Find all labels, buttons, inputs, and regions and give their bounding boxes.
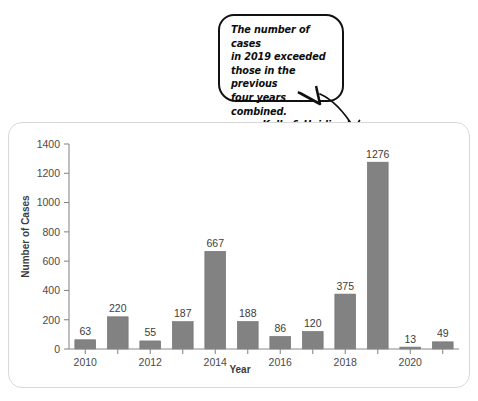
y-tick-label: 200 <box>42 314 60 326</box>
bar <box>367 162 388 349</box>
bar-value-label: 13 <box>404 333 416 345</box>
y-tick-label: 0 <box>54 343 60 355</box>
bar <box>140 341 161 349</box>
annotation-callout: The number of cases in 2019 exceeded tho… <box>218 14 344 102</box>
bar-value-label: 188 <box>239 307 257 319</box>
bar-value-label: 375 <box>336 280 354 292</box>
x-tick-label: 2020 <box>399 356 423 368</box>
y-tick-label: 1000 <box>37 196 61 208</box>
x-tick-label: 2010 <box>74 356 98 368</box>
bar-value-label: 1276 <box>366 148 390 160</box>
bar-value-label: 63 <box>79 325 91 337</box>
bar <box>237 321 258 349</box>
bar-value-label: 187 <box>174 307 192 319</box>
bar-value-label: 220 <box>109 302 127 314</box>
bar-chart-plot: 0200400600800100012001400 63220551876671… <box>9 123 471 389</box>
x-tick-label: 2012 <box>139 356 163 368</box>
x-axis-tick-labels: 201020122014201620182020 <box>74 356 423 368</box>
y-tick-label: 800 <box>42 226 60 238</box>
bar-value-label: 55 <box>144 326 156 338</box>
speech-bubble-tail <box>296 86 326 106</box>
bar-value-label: 86 <box>274 322 286 334</box>
bar-value-label: 667 <box>206 237 224 249</box>
bar <box>172 322 193 349</box>
bar-value-labels: 63220551876671888612037512761349 <box>79 148 448 345</box>
bar <box>335 294 356 349</box>
y-tick-label: 600 <box>42 255 60 267</box>
x-tick-label: 2014 <box>204 356 228 368</box>
y-tick-label: 1200 <box>37 167 61 179</box>
y-axis-tick-marks <box>64 144 69 349</box>
bars-group <box>75 162 453 349</box>
y-tick-label: 1400 <box>37 138 61 150</box>
x-axis-tick-marks <box>85 349 443 354</box>
bar <box>270 336 291 349</box>
y-tick-label: 400 <box>42 284 60 296</box>
bar <box>75 340 96 349</box>
y-axis-tick-labels: 0200400600800100012001400 <box>37 138 61 355</box>
chart-panel: Number of Cases Year 0200400600800100012… <box>8 122 470 388</box>
x-tick-label: 2018 <box>334 356 358 368</box>
bar <box>302 331 323 349</box>
bar <box>432 342 453 349</box>
bar-value-label: 120 <box>304 317 322 329</box>
bar <box>205 251 226 349</box>
x-tick-label: 2016 <box>269 356 293 368</box>
bar-value-label: 49 <box>437 327 449 339</box>
bar <box>107 317 128 349</box>
